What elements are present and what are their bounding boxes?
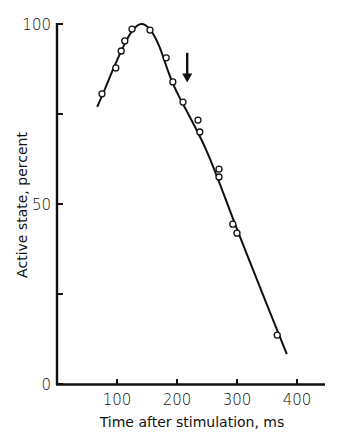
data-point [170, 79, 176, 85]
x-tick-label: 100 [103, 391, 132, 409]
data-point [197, 129, 203, 135]
data-point [195, 117, 201, 123]
data-point [216, 174, 222, 180]
fitted-curve [97, 24, 287, 354]
x-tick-label: 400 [283, 391, 312, 409]
data-point [180, 99, 186, 105]
arrow-head [182, 74, 192, 83]
y-tick-label: 0 [41, 376, 51, 394]
data-point [118, 48, 124, 54]
x-tick-label: 200 [163, 391, 192, 409]
data-point [274, 332, 280, 338]
data-markers [99, 26, 280, 338]
plot-area [97, 24, 287, 354]
data-point [99, 91, 105, 97]
data-point [122, 38, 128, 44]
data-point [234, 230, 240, 236]
x-tick-label: 300 [223, 391, 252, 409]
chart: 050100 100200300400 Time after stimulati… [0, 0, 340, 442]
data-point [147, 27, 153, 33]
y-tick-label: 50 [32, 196, 51, 214]
annotations [182, 53, 192, 83]
y-tick-label: 100 [22, 16, 51, 34]
y-axis-title: Active state, percent [14, 132, 30, 278]
data-point [129, 26, 135, 32]
axes: 050100 100200300400 Time after stimulati… [14, 16, 325, 430]
data-point [163, 55, 169, 61]
data-point [216, 166, 222, 172]
data-point [230, 221, 236, 227]
x-axis-title: Time after stimulation, ms [99, 414, 285, 430]
data-point [113, 65, 119, 71]
